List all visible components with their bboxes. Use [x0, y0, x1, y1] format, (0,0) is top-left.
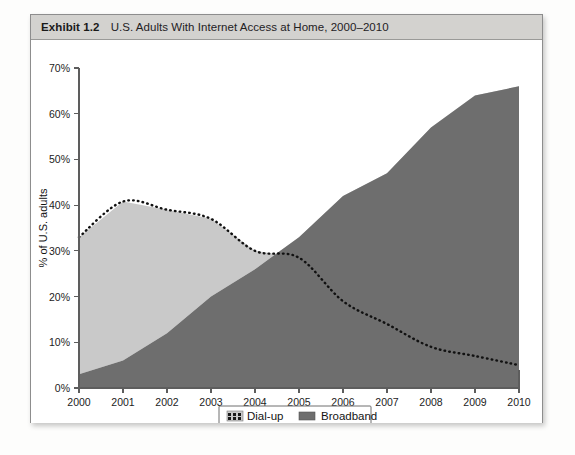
- legend: Dial-up Broadband: [219, 406, 377, 423]
- legend-swatch-dot-1: [228, 413, 231, 416]
- x-tick-label: 2000: [67, 396, 91, 408]
- x-tick-label: 2002: [155, 396, 179, 408]
- legend-swatch-broadband: [299, 412, 315, 420]
- legend-swatch-dot-3: [238, 413, 241, 416]
- y-axis-title: % of U.S. adults: [37, 188, 49, 267]
- chart-area: 0%10%20%30%40%50%60%70% 2000200120022003…: [31, 40, 542, 423]
- x-tick-label: 2009: [463, 396, 487, 408]
- x-tick-label: 2001: [111, 396, 135, 408]
- legend-item-dialup[interactable]: Dial-up: [227, 410, 283, 422]
- y-tick-label: 10%: [49, 336, 70, 348]
- y-tick-label: 0%: [55, 382, 70, 394]
- legend-item-broadband[interactable]: Broadband: [299, 410, 377, 422]
- legend-label-dialup: Dial-up: [247, 410, 283, 422]
- x-tick-label: 2007: [375, 396, 399, 408]
- page-background: Exhibit 1.2 U.S. Adults With Internet Ac…: [0, 0, 575, 455]
- area-chart: 0%10%20%30%40%50%60%70% 2000200120022003…: [31, 40, 542, 423]
- y-tick-label: 40%: [49, 199, 70, 211]
- y-tick-label: 30%: [49, 245, 70, 257]
- y-tick-label: 20%: [49, 291, 70, 303]
- legend-swatch-dot-4: [228, 417, 231, 420]
- legend-label-broadband: Broadband: [321, 410, 377, 422]
- x-ticks: 2000200120022003200420052006200720082009…: [67, 388, 531, 408]
- y-tick-label: 60%: [49, 108, 70, 120]
- exhibit-label: Exhibit 1.2: [41, 21, 100, 33]
- exhibit-header: Exhibit 1.2 U.S. Adults With Internet Ac…: [31, 15, 542, 40]
- legend-swatch-dot-6: [238, 417, 241, 420]
- x-tick-label: 2008: [419, 396, 443, 408]
- x-tick-label: 2010: [507, 396, 531, 408]
- exhibit-title: U.S. Adults With Internet Access at Home…: [111, 21, 389, 33]
- y-tick-label: 50%: [49, 153, 70, 165]
- legend-swatch-dot-2: [233, 413, 236, 416]
- y-ticks: 0%10%20%30%40%50%60%70%: [49, 62, 79, 394]
- y-tick-label: 70%: [49, 62, 70, 74]
- legend-swatch-dot-5: [233, 417, 236, 420]
- exhibit-card: Exhibit 1.2 U.S. Adults With Internet Ac…: [30, 14, 543, 423]
